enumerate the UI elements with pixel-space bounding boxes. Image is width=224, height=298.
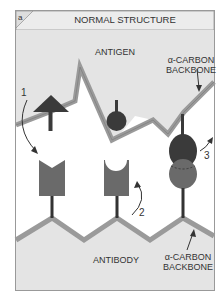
top-backbone-label-line1: α-CARBON (163, 55, 219, 65)
antibody-oval (169, 159, 197, 189)
step3-label: 3 (204, 151, 210, 161)
bottom-backbone-label-line2: BACKBONE (160, 262, 216, 272)
antibody-oval-stem (182, 188, 185, 218)
antigen-triangle-stem (49, 111, 53, 131)
step2-label: 2 (139, 208, 145, 218)
antibody-notch-stem (51, 196, 54, 218)
step1-label: 1 (21, 88, 27, 98)
panel-letter: a (18, 13, 22, 23)
top-backbone-label-line2: BACKBONE (163, 65, 219, 75)
antigen-label: ANTIGEN (90, 47, 140, 57)
antigen-circle (107, 111, 127, 131)
antibody-label: ANTIBODY (86, 255, 146, 265)
panel-title: NORMAL STRUCTURE (40, 15, 210, 25)
bottom-backbone-label-line1: α-CARBON (160, 252, 216, 262)
antibody-cup-stem (116, 196, 119, 218)
